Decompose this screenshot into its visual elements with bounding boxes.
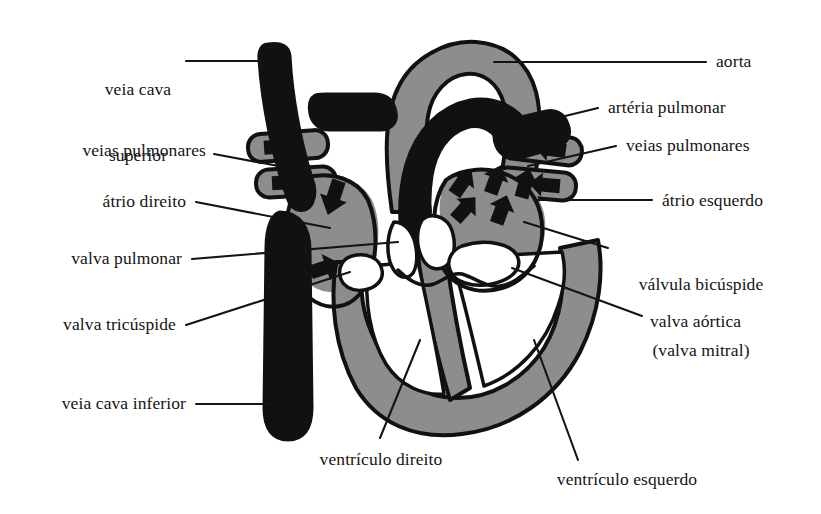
label-valvula-bicuspide-line2: (valva mitral) bbox=[612, 339, 790, 361]
label-veia-cava-superior: veia cava superior bbox=[92, 34, 184, 210]
label-veias-pulmonares-left: veias pulmonares bbox=[10, 139, 206, 161]
label-ventriculo-esquerdo: ventrículo esquerdo bbox=[534, 468, 720, 490]
label-valva-tricuspide: valva tricúspide bbox=[10, 313, 176, 335]
label-atrio-direito: átrio direito bbox=[10, 190, 186, 212]
label-ventriculo-direito: ventrículo direito bbox=[298, 448, 464, 470]
label-atrio-esquerdo: átrio esquerdo bbox=[662, 189, 763, 211]
bicuspid-mitral-valve-leaflets bbox=[449, 242, 519, 285]
label-aorta: aorta bbox=[716, 50, 751, 72]
label-veia-cava-superior-line1: veia cava bbox=[92, 78, 184, 100]
label-valva-pulmonar: valva pulmonar bbox=[10, 247, 182, 269]
label-veias-pulmonares-right: veias pulmonares bbox=[626, 134, 750, 156]
label-veia-cava-inferior: veia cava inferior bbox=[10, 392, 186, 414]
heart-anatomy-figure: veia cava superior veias pulmonares átri… bbox=[0, 0, 821, 514]
label-arteria-pulmonar: artéria pulmonar bbox=[608, 96, 726, 118]
pulmonary-artery-left-branch bbox=[309, 94, 396, 130]
label-valvula-bicuspide-line1: válvula bicúspide bbox=[612, 273, 790, 295]
label-valva-aortica: valva aórtica bbox=[650, 310, 741, 332]
